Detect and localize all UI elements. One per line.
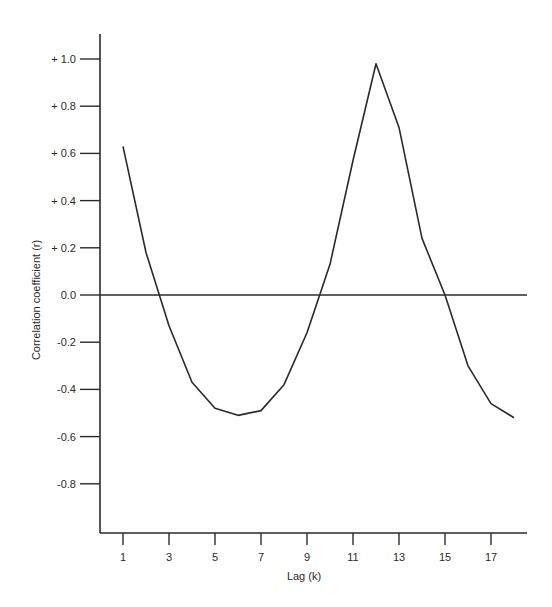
y-axis-label: Correlation coefficient (r) xyxy=(30,240,42,360)
y-axis-ticks: + 1.0+ 0.8+ 0.6+ 0.4+ 0.20.0-0.2-0.4-0.6… xyxy=(51,53,100,490)
x-tick-label: 1 xyxy=(120,551,126,563)
y-tick-label: -0.8 xyxy=(57,478,76,490)
x-tick-label: 13 xyxy=(393,551,405,563)
x-axis-ticks: 1357911131517 xyxy=(120,533,497,563)
y-tick-label: 0.0 xyxy=(61,289,76,301)
x-axis-label: Lag (k) xyxy=(287,570,321,582)
y-tick-label: + 1.0 xyxy=(51,53,76,65)
axes xyxy=(100,34,527,533)
x-tick-label: 15 xyxy=(439,551,451,563)
x-tick-label: 9 xyxy=(304,551,310,563)
x-tick-label: 7 xyxy=(258,551,264,563)
y-tick-label: -0.6 xyxy=(57,431,76,443)
x-tick-label: 3 xyxy=(166,551,172,563)
y-tick-label: + 0.4 xyxy=(51,195,76,207)
x-tick-label: 17 xyxy=(485,551,497,563)
y-tick-label: -0.4 xyxy=(57,383,76,395)
y-tick-label: + 0.8 xyxy=(51,100,76,112)
x-tick-label: 5 xyxy=(212,551,218,563)
correlogram-chart: + 1.0+ 0.8+ 0.6+ 0.4+ 0.20.0-0.2-0.4-0.6… xyxy=(0,0,552,607)
y-tick-label: -0.2 xyxy=(57,336,76,348)
y-tick-label: + 0.6 xyxy=(51,147,76,159)
correlation-line xyxy=(123,64,514,418)
y-tick-label: + 0.2 xyxy=(51,242,76,254)
x-tick-label: 11 xyxy=(347,551,358,563)
